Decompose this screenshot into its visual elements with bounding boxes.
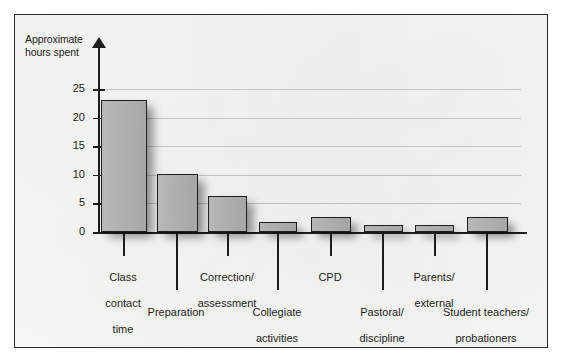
y-axis-title-line2: hours spent [25,46,97,59]
x-label-parents-external-line1: Parents/ [398,271,470,284]
gridline-15 [99,146,521,147]
bar-parents-external[interactable] [415,225,454,232]
chart-page: Approximate hours spent 25 20 15 10 [0,0,562,364]
x-label-collegiate-activities: Collegiate activities [242,293,312,358]
leader-line-parents-external [434,234,436,256]
y-tick-label-25: 25 [59,82,85,94]
x-label-pastoral-discipline: Pastoral/ discipline [347,293,417,358]
x-label-cpd: CPD [301,258,359,297]
leader-line-preparation [176,234,178,290]
x-label-student-teachers-probationers: Student teachers/ probationers [434,293,538,358]
bar-collegiate-activities[interactable] [259,222,297,232]
gridline-20 [99,118,521,119]
y-tick-label-5: 5 [59,196,85,208]
y-tick-label-0: 0 [59,225,85,237]
bar-class-contact-time[interactable] [101,100,147,232]
x-label-collegiate-activities-line1: Collegiate [242,306,312,319]
leader-line-pastoral-discipline [382,234,384,290]
y-tick-label-10: 10 [59,168,85,180]
y-tick-label-15: 15 [59,139,85,151]
leader-line-cpd [330,234,332,256]
figure-frame: Approximate hours spent 25 20 15 10 [14,14,548,348]
leader-line-collegiate-activities [277,234,279,290]
leader-line-student-teachers-probationers [486,234,488,290]
bar-pastoral-discipline[interactable] [364,225,403,232]
bar-correction-assessment[interactable] [208,196,247,232]
x-label-pastoral-discipline-line1: Pastoral/ [347,306,417,319]
x-label-student-teachers-probationers-line1: Student teachers/ [434,306,538,319]
bar-student-teachers-probationers[interactable] [467,217,508,232]
leader-line-correction-assessment [227,234,229,256]
x-label-pastoral-discipline-line2: discipline [347,332,417,345]
y-tick-label-20: 20 [59,111,85,123]
x-label-student-teachers-probationers-line2: probationers [434,332,538,345]
x-label-cpd-line1: CPD [301,271,359,284]
gridline-25 [99,89,521,90]
y-axis-title: Approximate hours spent [25,33,97,58]
x-label-class-contact-time-line1: Class [91,271,155,284]
x-label-preparation-line1: Preparation [137,306,215,319]
bar-chart-plot: Approximate hours spent 25 20 15 10 [15,15,549,349]
x-label-preparation: Preparation [137,293,215,332]
x-label-correction-assessment-line1: Correction/ [183,271,271,284]
y-axis-title-line1: Approximate [25,33,97,46]
leader-line-class-contact-time [123,234,125,256]
bar-cpd[interactable] [311,217,351,232]
bar-preparation[interactable] [157,174,198,232]
y-tick-25 [93,89,105,91]
x-label-collegiate-activities-line2: activities [242,332,312,345]
